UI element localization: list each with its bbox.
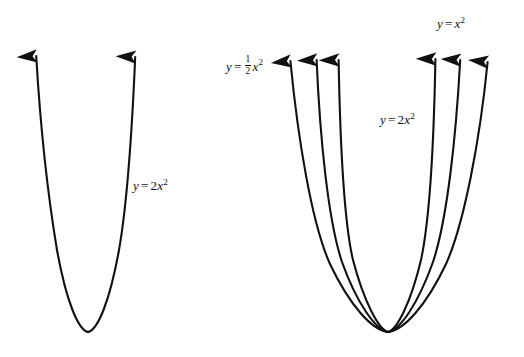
figure-background bbox=[0, 0, 524, 357]
parabola-figure: y=2x2 y=12x2 y=2x2 y=x2 bbox=[0, 0, 524, 357]
label-fraction-one-half: 12 bbox=[245, 55, 252, 76]
fraction-denominator: 2 bbox=[245, 66, 252, 76]
curve-label-right-x2: y=x2 bbox=[437, 17, 465, 30]
fraction-numerator: 1 bbox=[245, 55, 252, 66]
label-equals: = bbox=[443, 16, 455, 31]
curve-label-left-2x2: y=2x2 bbox=[133, 179, 168, 192]
curve-label-right-half-x2: y=12x2 bbox=[226, 55, 263, 76]
label-equals: = bbox=[386, 112, 398, 127]
label-exponent: 2 bbox=[258, 57, 263, 67]
label-exponent: 2 bbox=[163, 177, 168, 187]
label-equals: = bbox=[139, 178, 151, 193]
curve-label-right-2x2: y=2x2 bbox=[380, 113, 415, 126]
label-exponent: 2 bbox=[410, 111, 415, 121]
label-equals: = bbox=[232, 59, 244, 74]
label-exponent: 2 bbox=[461, 15, 466, 25]
parabola-canvas bbox=[0, 0, 524, 357]
